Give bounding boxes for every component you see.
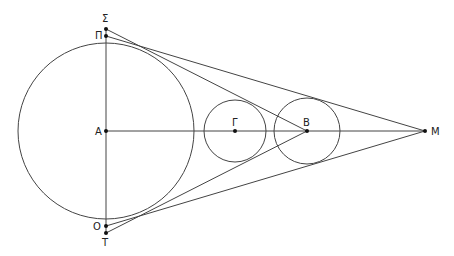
label-B: B — [303, 117, 310, 128]
point-M — [423, 129, 427, 133]
point-B — [305, 129, 309, 133]
point-Pi — [104, 34, 108, 38]
label-Gamma: Γ — [232, 117, 238, 128]
point-A — [104, 129, 108, 133]
point-O — [104, 224, 108, 228]
point-Sigma — [104, 27, 108, 31]
label-M: M — [431, 126, 440, 137]
label-Sigma: Σ — [102, 13, 108, 24]
label-Pi: Π — [95, 30, 103, 41]
segment-T-B — [106, 131, 307, 233]
segments — [106, 29, 425, 233]
geometry-diagram: ΣΠAΓBMOT — [0, 0, 454, 256]
label-A: A — [95, 126, 102, 137]
label-O: O — [93, 221, 101, 232]
point-Gamma — [233, 129, 237, 133]
label-T: T — [101, 237, 109, 248]
segment-Sigma-B — [106, 29, 307, 131]
segment-O-M — [106, 131, 425, 226]
segment-Pi-M — [106, 36, 425, 131]
point-T — [104, 231, 108, 235]
